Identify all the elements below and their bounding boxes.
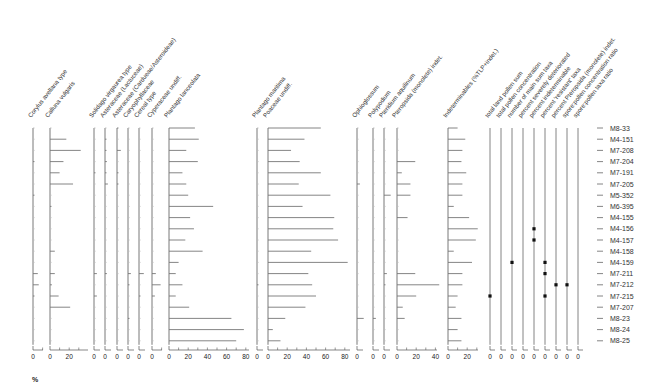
pollen-diagram: Corylus avellana type0Calluna vulgaris02… xyxy=(0,0,664,390)
tick-label: 0 xyxy=(255,353,259,360)
data-point xyxy=(510,261,513,264)
tick-label: 40 xyxy=(303,353,311,360)
tick-label: 0 xyxy=(115,353,119,360)
tick-label: 0 xyxy=(499,353,503,360)
ratio-column: spore:pollen taxa ratio0 xyxy=(571,66,614,360)
taxon-column: Pteropsida (monolete) indet.02040 xyxy=(390,53,444,360)
sample-label: M8-25 xyxy=(610,337,630,344)
data-point xyxy=(565,283,568,286)
tick-label: 0 xyxy=(554,353,558,360)
data-point xyxy=(488,294,491,297)
sample-axis: M8-33M4-151M7-208M7-204M7-191M7-205M5-35… xyxy=(597,125,634,345)
tick-label: 0 xyxy=(92,353,96,360)
sample-label: M7-207 xyxy=(610,304,634,311)
sample-label: M7-205 xyxy=(610,181,634,188)
tick-label: 0 xyxy=(382,353,386,360)
data-point xyxy=(554,283,557,286)
data-point xyxy=(543,261,546,264)
sample-label: M4-157 xyxy=(610,237,634,244)
tick-label: 20 xyxy=(185,353,193,360)
tick-label: 40 xyxy=(204,353,212,360)
sample-label: M8-23 xyxy=(610,315,630,322)
taxon-column: Caryophyllaceae0 xyxy=(121,78,155,360)
tick-label: 20 xyxy=(66,353,74,360)
tick-label: 20 xyxy=(413,353,421,360)
tick-label: 0 xyxy=(167,353,171,360)
tick-label: 0 xyxy=(150,353,154,360)
taxon-column: Indeterminables (%TLP+indet.)020 xyxy=(441,47,499,360)
tick-label: 80 xyxy=(242,353,250,360)
tick-label: 0 xyxy=(266,353,270,360)
data-point xyxy=(543,294,546,297)
sample-label: M8-24 xyxy=(610,326,630,333)
sample-label: M7-212 xyxy=(610,281,634,288)
data-point xyxy=(532,227,535,230)
taxon-column: Polypodium0 xyxy=(366,89,391,360)
sample-label: M7-211 xyxy=(610,270,633,277)
taxon-column: Poaceae undiff.020406080 xyxy=(261,80,350,360)
tick-label: 0 xyxy=(355,353,359,360)
taxon-column: Cereal type0 xyxy=(132,89,157,360)
sample-label: M6-395 xyxy=(610,203,634,210)
tick-label: 80 xyxy=(341,353,349,360)
sample-label: M7-191 xyxy=(610,169,634,176)
tick-label: 0 xyxy=(543,353,547,360)
taxon-column: Plantago lanceolata020406080 xyxy=(162,71,250,360)
tick-label: 0 xyxy=(395,353,399,360)
sample-label: M4-156 xyxy=(610,225,634,232)
sample-label: M4-155 xyxy=(610,214,634,221)
tick-label: 40 xyxy=(432,353,440,360)
tick-label: 0 xyxy=(565,353,569,360)
sample-label: M8-33 xyxy=(610,125,630,132)
tick-label: 0 xyxy=(446,353,450,360)
tick-label: 0 xyxy=(532,353,536,360)
sample-label: M5-352 xyxy=(610,192,634,199)
tick-label: 60 xyxy=(322,353,330,360)
sample-label: M7-215 xyxy=(610,293,634,300)
tick-label: 0 xyxy=(488,353,492,360)
sample-label: M4-158 xyxy=(610,248,634,255)
tick-label: 20 xyxy=(284,353,292,360)
sample-label: M4-159 xyxy=(610,259,634,266)
tick-label: 0 xyxy=(371,353,375,360)
tick-label: 0 xyxy=(103,353,107,360)
sample-label: M4-151 xyxy=(610,136,634,143)
taxon-column: Calluna vulgaris020 xyxy=(43,80,88,360)
tick-label: 20 xyxy=(464,353,472,360)
tick-label: 0 xyxy=(521,353,525,360)
tick-label: 0 xyxy=(48,353,52,360)
data-point xyxy=(532,238,535,241)
tick-label: 0 xyxy=(510,353,514,360)
sample-label: M7-204 xyxy=(610,158,634,165)
data-point xyxy=(543,272,546,275)
tick-label: 0 xyxy=(576,353,580,360)
tick-label: 0 xyxy=(126,353,130,360)
tick-label: 0 xyxy=(137,353,141,360)
percent-unit-label: % xyxy=(32,376,39,383)
taxon-label: Pteropsida (monolete) indet. xyxy=(390,53,444,119)
sample-label: M7-208 xyxy=(610,147,634,154)
tick-label: 0 xyxy=(31,353,35,360)
tick-label: 60 xyxy=(223,353,231,360)
